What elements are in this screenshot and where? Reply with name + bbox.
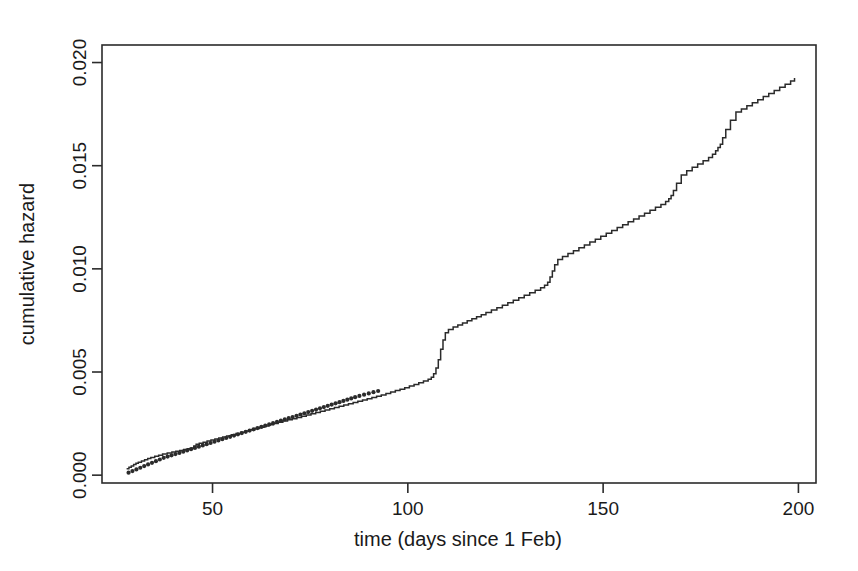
data-point (259, 425, 263, 429)
data-point (267, 422, 271, 426)
y-tick-label: 0.005 (70, 348, 91, 396)
data-point (126, 471, 130, 475)
data-point (197, 445, 201, 449)
y-tick-label: 0.015 (70, 142, 91, 190)
data-point (349, 396, 353, 400)
data-point (166, 454, 170, 458)
plot-frame (102, 45, 816, 483)
data-point (130, 469, 134, 473)
data-point (310, 409, 314, 413)
y-axis-ticks (92, 63, 102, 476)
data-point (244, 430, 248, 434)
data-point (138, 466, 142, 470)
data-point (134, 467, 138, 471)
data-point (251, 427, 255, 431)
data-point (337, 400, 341, 404)
data-point (318, 406, 322, 410)
data-point (154, 459, 158, 463)
x-tick-label: 50 (202, 498, 223, 519)
y-axis-tick-labels: 0.0000.0050.0100.0150.020 (70, 39, 91, 499)
y-tick-label: 0.020 (70, 39, 91, 87)
data-point (353, 395, 357, 399)
data-point (376, 389, 380, 393)
data-point (208, 441, 212, 445)
hazard-step-curve (127, 78, 795, 469)
data-point (205, 442, 209, 446)
data-point (228, 435, 232, 439)
data-point (263, 424, 267, 428)
data-point (240, 431, 244, 435)
data-point (224, 436, 228, 440)
data-point (357, 394, 361, 398)
data-point (283, 417, 287, 421)
data-point (322, 405, 326, 409)
data-point (220, 437, 224, 441)
data-point (294, 414, 298, 418)
data-point (345, 398, 349, 402)
y-tick-label: 0.010 (70, 245, 91, 293)
x-tick-label: 200 (783, 498, 815, 519)
data-point (212, 440, 216, 444)
data-point (189, 447, 193, 451)
data-point (248, 428, 252, 432)
x-tick-label: 150 (587, 498, 619, 519)
data-point (298, 412, 302, 416)
data-point (341, 399, 345, 403)
y-axis-title: cumulative hazard (16, 183, 38, 345)
data-point (185, 448, 189, 452)
data-point (162, 456, 166, 460)
data-point (142, 464, 146, 468)
data-point (291, 415, 295, 419)
data-point (193, 446, 197, 450)
data-point (169, 453, 173, 457)
x-axis-ticks (213, 483, 799, 493)
data-point (367, 391, 371, 395)
data-point (302, 411, 306, 415)
data-point (150, 461, 154, 465)
data-point (326, 404, 330, 408)
data-point (216, 438, 220, 442)
x-tick-label: 100 (392, 498, 424, 519)
chart-figure: 0.0000.0050.0100.0150.020 50100150200 ti… (0, 0, 858, 571)
data-point (333, 401, 337, 405)
data-point (306, 410, 310, 414)
x-axis-title: time (days since 1 Feb) (354, 528, 562, 550)
data-point (232, 433, 236, 437)
data-point (362, 393, 366, 397)
data-point (275, 420, 279, 424)
data-point (236, 432, 240, 436)
data-point (158, 457, 162, 461)
data-point (314, 407, 318, 411)
data-point (279, 419, 283, 423)
x-axis-tick-labels: 50100150200 (202, 498, 814, 519)
data-point (287, 416, 291, 420)
data-point (201, 443, 205, 447)
data-point (181, 450, 185, 454)
data-point (371, 390, 375, 394)
y-tick-label: 0.000 (70, 451, 91, 499)
data-point (330, 403, 334, 407)
data-point (146, 462, 150, 466)
data-point (173, 452, 177, 456)
cumulative-hazard-plot: 0.0000.0050.0100.0150.020 50100150200 ti… (0, 0, 858, 571)
data-series-group (126, 78, 794, 475)
data-point (255, 426, 259, 430)
data-point (177, 451, 181, 455)
data-point (271, 421, 275, 425)
